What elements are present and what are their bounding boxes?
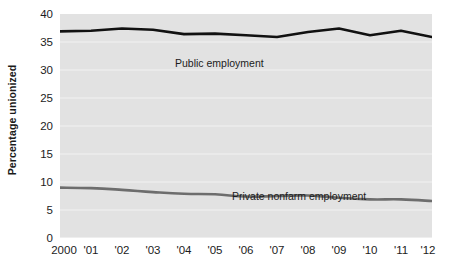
x-axis-tick-08: '08 [301,244,316,256]
series-line-public-employment [60,29,432,37]
plot-svg [60,14,432,238]
y-axis-tick-30: 30 [40,64,53,76]
y-axis-tick-labels: 0510152025303540 [24,0,57,279]
x-axis-tick-10: '10 [363,244,378,256]
x-axis-tick-09: '09 [332,244,347,256]
y-axis-tick-20: 20 [40,120,53,132]
plot-area: Public employment Private nonfarm employ… [60,14,432,238]
x-axis-tick-01: '01 [84,244,99,256]
x-axis-tick-07: '07 [270,244,285,256]
y-axis-title-text: Percentage unionized [6,65,18,176]
x-axis-tick-11: '11 [394,244,408,256]
union-membership-chart: Percentage unionized 0510152025303540 Pu… [0,0,456,279]
x-axis-tick-12: '12 [421,244,436,256]
x-axis-tick-2000: 2000 [51,244,77,256]
y-axis-tick-15: 15 [40,148,53,160]
y-axis-tick-5: 5 [47,204,53,216]
series-label-public-employment: Public employment [175,57,264,69]
x-axis-tick-labels: 2000'01'02'03'04'05'06'07'08'09'10'11'12 [60,244,432,264]
x-axis-tick-03: '03 [146,244,161,256]
y-axis-tick-0: 0 [47,232,53,244]
x-axis-tick-02: '02 [115,244,130,256]
y-axis-tick-10: 10 [40,176,53,188]
series-label-private-nonfarm-employment: Private nonfarm employment [232,190,366,202]
x-axis-tick-06: '06 [239,244,254,256]
x-axis-tick-05: '05 [208,244,223,256]
y-axis-tick-25: 25 [40,92,53,104]
y-axis-title: Percentage unionized [0,0,24,240]
y-axis-tick-35: 35 [40,36,53,48]
x-axis-tick-04: '04 [177,244,192,256]
y-axis-tick-40: 40 [40,8,53,20]
